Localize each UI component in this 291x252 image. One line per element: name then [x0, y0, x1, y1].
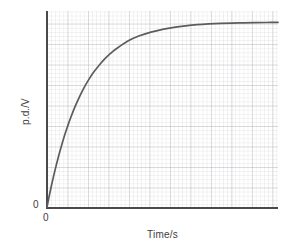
x-axis-label: Time/s — [47, 229, 278, 240]
y-axis-origin-label: 0 — [33, 200, 39, 210]
graph-figure: p.d./V Time/s 0 0 — [0, 0, 291, 252]
y-axis-label: p.d./V — [20, 82, 31, 142]
data-curve-path — [47, 22, 278, 207]
x-axis-origin-label: 0 — [43, 213, 49, 223]
